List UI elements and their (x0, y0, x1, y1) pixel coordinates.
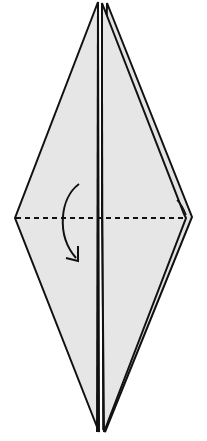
front-left-flap (15, 2, 99, 432)
origami-diagram: Valley fold top down along dashed line (0, 0, 207, 441)
diagram-canvas (0, 0, 207, 441)
